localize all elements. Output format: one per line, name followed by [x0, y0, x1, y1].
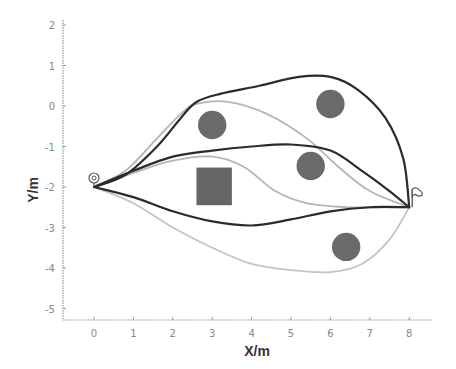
path-bottom-dark — [94, 187, 409, 226]
obstacles — [196, 90, 360, 261]
x-tick-label: 1 — [130, 328, 136, 339]
x-tick-label: 7 — [367, 328, 373, 339]
path-planning-chart: 210-1-2-3-4-5012345678 X/m Y/m — [0, 0, 456, 369]
obstacle-square — [196, 168, 231, 206]
y-tick-label: -2 — [45, 182, 55, 193]
obstacle-circle — [332, 233, 360, 261]
obstacle-circle — [316, 90, 344, 118]
path-top-dark — [94, 75, 409, 207]
x-tick-label: 3 — [209, 328, 215, 339]
x-tick-label: 6 — [327, 328, 333, 339]
x-tick-label: 4 — [248, 328, 254, 339]
y-tick-label: -3 — [45, 223, 55, 234]
x-axis-title: X/m — [244, 343, 270, 359]
y-tick-label: 1 — [49, 61, 55, 72]
start-target-icon — [89, 173, 99, 183]
y-tick-label: -5 — [45, 304, 55, 315]
y-tick-label: -4 — [45, 263, 55, 274]
obstacle-circle — [297, 152, 325, 180]
y-tick-label: -1 — [45, 142, 55, 153]
x-tick-label: 0 — [91, 328, 97, 339]
path-top-light — [94, 101, 409, 207]
x-tick-label: 2 — [170, 328, 176, 339]
x-tick-label: 5 — [288, 328, 294, 339]
obstacle-circle — [198, 111, 226, 139]
goal-flag-icon — [412, 188, 422, 196]
y-axis-title: Y/m — [25, 177, 41, 203]
trajectories — [94, 75, 409, 272]
x-tick-label: 8 — [406, 328, 412, 339]
path-middle-dark — [94, 144, 409, 207]
y-tick-label: 2 — [49, 20, 55, 31]
y-tick-label: 0 — [49, 101, 55, 112]
